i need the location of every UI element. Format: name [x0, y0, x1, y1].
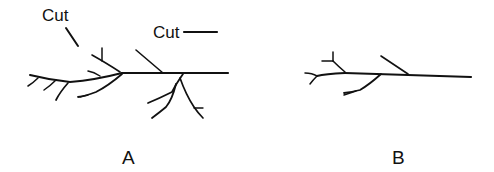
- panel-b-drawing: [305, 52, 471, 95]
- cut-label-left: Cut: [42, 7, 68, 24]
- panel-a-drawing: [28, 28, 228, 118]
- branch-diagram: [0, 0, 494, 172]
- cut-label-right: Cut: [153, 24, 179, 41]
- panel-label-a: A: [122, 148, 135, 167]
- panel-label-b: B: [392, 148, 405, 167]
